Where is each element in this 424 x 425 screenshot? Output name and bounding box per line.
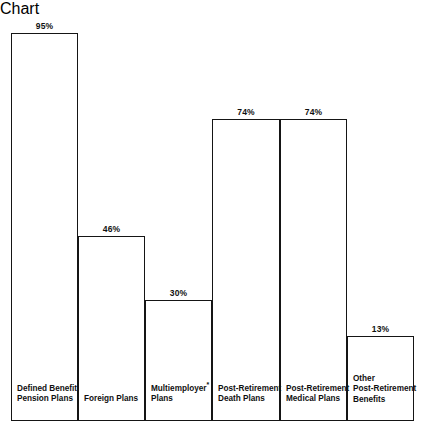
bar-defined-benefit-pension-plans — [11, 33, 78, 421]
bar-value-post-retirement-medical-plans: 74% — [280, 107, 347, 117]
bar-value-other-post-retirement-benefits: 13% — [347, 324, 414, 334]
bar-value-defined-benefit-pension-plans: 95% — [11, 21, 78, 31]
bar-label-post-retirement-death-plans: Post-Retirement Death Plans — [218, 384, 282, 405]
bar-label-other-post-retirement-benefits: Other Post-Retirement Benefits — [353, 374, 417, 405]
stepped-bar-chart: 95% Defined Benefit Pension Plans 46% Fo… — [0, 18, 424, 425]
bar-value-multiemployer-plans: 30% — [145, 288, 212, 298]
bar-label-multiemployer-plans: Multiemployer* Plans — [151, 384, 215, 405]
bar-label-foreign-plans: Foreign Plans — [84, 394, 146, 404]
bar-label-post-retirement-medical-plans: Post-Retirement Medical Plans — [286, 384, 350, 405]
bar-post-retirement-medical-plans — [280, 119, 347, 421]
bar-value-post-retirement-death-plans: 74% — [212, 107, 280, 117]
bar-label-defined-benefit-pension-plans: Defined Benefit Pension Plans — [17, 384, 79, 405]
bar-post-retirement-death-plans — [212, 119, 280, 421]
bar-value-foreign-plans: 46% — [78, 224, 145, 234]
